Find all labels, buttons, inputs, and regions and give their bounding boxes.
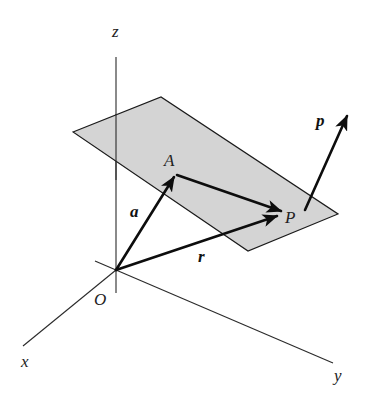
- origin-label: O: [94, 290, 106, 309]
- x-axis-label: x: [20, 352, 29, 371]
- point-P-label: P: [284, 208, 295, 227]
- vector-p-label: p: [314, 111, 325, 130]
- z-axis-label: z: [111, 22, 119, 41]
- y-axis-label: y: [332, 366, 342, 385]
- y-axis: [95, 261, 333, 363]
- vector-p-arrow: [305, 116, 347, 210]
- vector-a-arrow: [116, 177, 174, 270]
- vector-a-label: a: [130, 202, 139, 221]
- plane: [73, 97, 338, 251]
- point-A-label: A: [163, 151, 175, 170]
- vector-plane-diagram: z x y O A P a r p: [0, 0, 375, 401]
- vector-r-label: r: [198, 247, 205, 266]
